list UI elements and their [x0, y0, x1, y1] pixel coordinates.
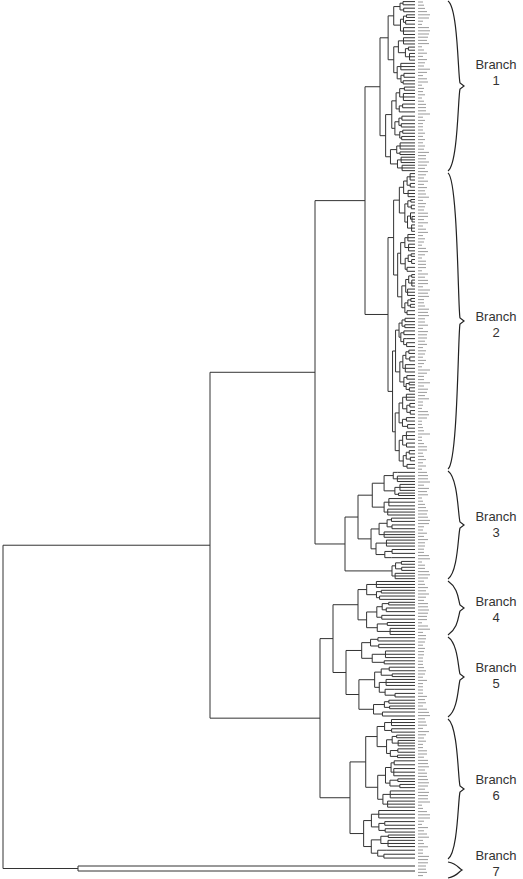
branch-label-3: Branch3 [466, 509, 523, 541]
branch-label-2: Branch2 [466, 309, 523, 341]
branch-label-7: Branch7 [466, 848, 523, 879]
branch-label-6: Branch6 [466, 772, 523, 804]
tree-edges [3, 2, 415, 871]
branch-braces [448, 1, 464, 878]
dendrogram [0, 0, 523, 879]
branch-label-1: Branch1 [466, 57, 523, 89]
branch-label-4: Branch4 [466, 594, 523, 626]
branch-label-5: Branch5 [466, 660, 523, 692]
leaf-labels-column [416, 0, 438, 879]
